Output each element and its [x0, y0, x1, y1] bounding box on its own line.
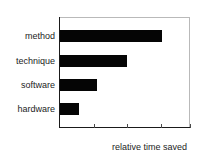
category-label-technique: technique	[16, 56, 55, 66]
bar-hardware	[60, 103, 79, 115]
bar-technique	[60, 55, 127, 67]
category-label-hardware: hardware	[17, 104, 55, 114]
x-tick-1	[94, 124, 95, 128]
bar-chart-figure: method technique software hardware relat…	[0, 0, 203, 162]
x-axis-caption: relative time saved	[112, 142, 187, 153]
x-tick-3	[161, 124, 162, 128]
bar-method	[60, 30, 162, 42]
bar-software	[60, 79, 97, 91]
category-label-method: method	[25, 31, 55, 41]
x-tick-4	[190, 124, 191, 128]
x-tick-2	[127, 124, 128, 128]
category-label-software: software	[21, 80, 55, 90]
x-axis-line	[59, 127, 190, 128]
